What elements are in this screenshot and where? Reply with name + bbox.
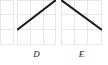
series-svg-d	[17, 0, 56, 45]
grid-line-vertical	[13, 0, 14, 45]
chart-panel-clipped	[0, 0, 14, 45]
plot-area-e	[61, 0, 102, 45]
panel-label-e: E	[61, 48, 102, 60]
grid-line-horizontal	[0, 29, 14, 30]
grid-lines-clipped	[0, 0, 14, 45]
plot-area-d	[17, 0, 56, 45]
data-line-e	[61, 0, 102, 30]
series-svg-e	[61, 0, 102, 45]
chart-panel-d	[17, 0, 56, 45]
chart-panel-e	[61, 0, 102, 45]
grid-line-horizontal	[0, 44, 14, 45]
grid-line-horizontal	[0, 14, 14, 15]
figure-panel-row: D E	[0, 0, 108, 65]
grid-line-vertical	[0, 0, 1, 45]
grid-line-horizontal	[0, 0, 14, 1]
data-line-d	[17, 0, 56, 30]
panel-label-d: D	[17, 48, 56, 60]
